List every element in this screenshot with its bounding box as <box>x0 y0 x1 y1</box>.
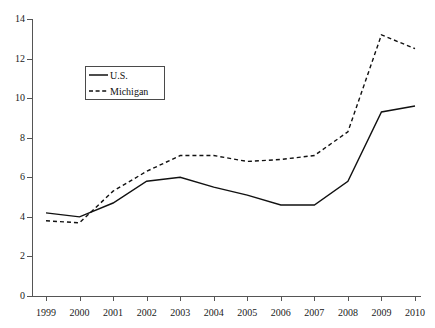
legend-label-us: U.S. <box>110 70 128 81</box>
x-tick-mark <box>147 296 148 301</box>
legend-swatch-dashed-icon <box>89 87 108 95</box>
x-tick-mark <box>80 296 81 301</box>
x-tick-mark <box>281 296 282 301</box>
y-tick-mark <box>27 296 33 297</box>
y-tick-label: 0 <box>3 291 25 301</box>
y-tick-mark <box>27 138 33 139</box>
y-tick-label: 6 <box>3 172 25 182</box>
series-line-michigan <box>46 35 415 223</box>
x-tick-mark <box>247 296 248 301</box>
series-line-us <box>46 106 415 217</box>
legend-label-michigan: Michigan <box>110 86 148 97</box>
x-tick-mark <box>180 296 181 301</box>
y-tick-mark <box>27 177 33 178</box>
chart-legend: U.S. Michigan <box>85 66 165 100</box>
y-tick-mark <box>27 256 33 257</box>
y-tick-label-wrap: 6 <box>0 172 25 182</box>
y-axis-line <box>32 19 33 297</box>
y-tick-label: 10 <box>3 93 25 103</box>
y-tick-mark <box>27 98 33 99</box>
y-tick-label: 14 <box>3 14 25 24</box>
y-tick-label: 12 <box>3 54 25 64</box>
x-tick-mark <box>348 296 349 301</box>
y-tick-label-wrap: 12 <box>0 54 25 64</box>
legend-item-us: U.S. <box>86 67 164 83</box>
y-tick-label: 4 <box>3 212 25 222</box>
y-tick-label-wrap: 0 <box>0 291 25 301</box>
y-tick-label-wrap: 10 <box>0 93 25 103</box>
x-tick-mark <box>214 296 215 301</box>
y-tick-label-wrap: 8 <box>0 133 25 143</box>
x-tick-mark <box>113 296 114 301</box>
x-tick-label: 2010 <box>395 307 435 318</box>
x-tick-mark <box>381 296 382 301</box>
legend-item-michigan: Michigan <box>86 83 164 99</box>
y-tick-label: 8 <box>3 133 25 143</box>
x-tick-mark <box>46 296 47 301</box>
y-tick-label-wrap: 2 <box>0 251 25 261</box>
unemployment-rate-line-chart: 02468101214 1999200020012002200320042005… <box>0 0 435 328</box>
series-layer <box>0 0 435 328</box>
y-tick-mark <box>27 19 33 20</box>
top-text-remnant <box>0 0 435 9</box>
y-tick-label-wrap: 4 <box>0 212 25 222</box>
y-tick-mark <box>27 217 33 218</box>
y-tick-label-wrap: 14 <box>0 14 25 24</box>
x-axis-line <box>32 296 421 297</box>
legend-swatch-solid-icon <box>89 71 108 79</box>
y-tick-mark <box>27 59 33 60</box>
y-tick-label: 2 <box>3 251 25 261</box>
x-tick-mark <box>415 296 416 301</box>
x-tick-mark <box>314 296 315 301</box>
